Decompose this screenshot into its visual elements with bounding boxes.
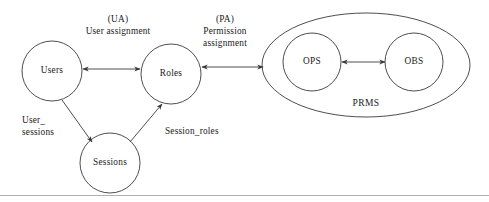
users-label: Users (41, 65, 64, 75)
user-sessions-label-line-2: sessions (22, 127, 54, 137)
edge-user-assignment: (UA) User assignment (83, 14, 151, 69)
permission-assignment-label-line-3: assignment (203, 38, 247, 48)
user-sessions-label-line-1: User_ (22, 115, 45, 125)
node-users: Users (22, 41, 82, 101)
node-roles: Roles (141, 44, 201, 104)
session-roles-arrow (130, 104, 162, 142)
node-obs: OBS (385, 33, 443, 91)
edge-user-sessions: User_ sessions (22, 100, 92, 142)
user-assignment-label-line-2: User assignment (86, 26, 151, 36)
rbac-diagram-canvas: PRMS (UA) User assignment (PA) Permissio… (0, 0, 489, 202)
edge-permission-assignment: (PA) Permission assignment (202, 14, 263, 67)
node-ops: OPS (283, 33, 341, 91)
prms-label: PRMS (353, 98, 380, 108)
user-sessions-arrow (62, 100, 92, 142)
sessions-label: Sessions (93, 157, 127, 167)
edge-session-roles: Session_roles (130, 104, 219, 142)
obs-label: OBS (405, 56, 424, 66)
rbac-diagram-svg: PRMS (UA) User assignment (PA) Permissio… (0, 0, 489, 202)
ops-label: OPS (303, 56, 321, 66)
user-assignment-label-line-1: (UA) (108, 14, 128, 25)
node-sessions: Sessions (80, 133, 140, 193)
group-prms: PRMS (262, 13, 470, 117)
permission-assignment-label-line-1: (PA) (216, 14, 234, 25)
permission-assignment-label-line-2: Permission (203, 26, 246, 36)
roles-label: Roles (160, 68, 183, 78)
session-roles-label: Session_roles (165, 126, 219, 136)
